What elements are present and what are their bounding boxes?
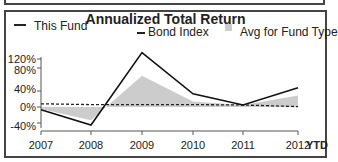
avg-fund-type-area: [41, 76, 298, 120]
